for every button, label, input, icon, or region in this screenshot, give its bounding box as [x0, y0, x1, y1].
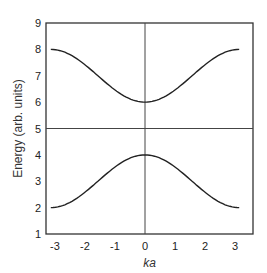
- x-tick-label: 1: [172, 240, 178, 252]
- y-tick-label: 9: [35, 17, 41, 29]
- y-tick-label: 1: [35, 228, 41, 240]
- y-tick-label: 6: [35, 96, 41, 108]
- y-tick-label: 3: [35, 175, 41, 187]
- x-tick-label: 0: [142, 240, 148, 252]
- y-tick-label: 4: [35, 149, 41, 161]
- y-tick-label: 2: [35, 202, 41, 214]
- x-tick-label: -1: [110, 240, 120, 252]
- x-tick-label: 3: [232, 240, 238, 252]
- y-tick-label: 5: [35, 123, 41, 135]
- y-axis-label: Energy (arb. units): [11, 79, 25, 178]
- y-tick-label: 8: [35, 43, 41, 55]
- x-tick-label: -2: [80, 240, 90, 252]
- y-tick-label: 7: [35, 70, 41, 82]
- x-tick-label: -3: [50, 240, 60, 252]
- chart: -3-2-10123123456789kaEnergy (arb. units): [0, 0, 267, 273]
- x-tick-label: 2: [202, 240, 208, 252]
- band-structure-plot: -3-2-10123123456789kaEnergy (arb. units): [0, 0, 267, 273]
- x-axis-label: ka: [143, 256, 156, 270]
